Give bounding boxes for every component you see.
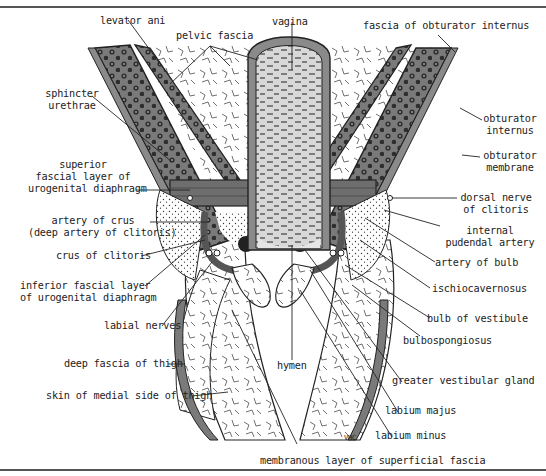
label-deep-fascia-of-thigh: deep fascia of thigh (64, 358, 183, 370)
label-line: artery of crus (28, 215, 158, 227)
label-obturator-internus: obturator internus (480, 113, 540, 137)
label-line: internal (440, 225, 540, 237)
label-pelvic-fascia: pelvic fascia (176, 30, 253, 42)
label-line: membrane (480, 162, 540, 174)
label-line: of clitoris (455, 204, 537, 216)
artist-signature: VHC (344, 432, 356, 444)
label-line: of urogenital diaphragm (20, 292, 150, 304)
label-superior-fascial-layer: superior fascial layer of urogenital dia… (28, 159, 138, 195)
label-levator-ani: levator ani (100, 15, 165, 27)
label-line: inferior fascial layer (20, 280, 150, 292)
label-line: pudendal artery (440, 237, 540, 249)
label-skin-medial-thigh: skin of medial side of thigh (46, 390, 212, 402)
label-line: internus (480, 125, 540, 137)
label-sphincter-urethrae: sphincter urethrae (42, 88, 102, 112)
label-vagina: vagina (272, 16, 308, 28)
label-obturator-membrane: obturator membrane (480, 150, 540, 174)
label-line: obturator (480, 150, 540, 162)
label-hymen: hymen (277, 360, 307, 372)
label-dorsal-nerve-clitoris: dorsal nerve of clitoris (455, 192, 537, 216)
label-line: dorsal nerve (455, 192, 537, 204)
label-line: obturator (480, 113, 540, 125)
label-greater-vestibular-gland: greater vestibular gland (392, 375, 534, 387)
label-internal-pudendal-artery: internal pudendal artery (440, 225, 540, 249)
anatomy-figure: levator ani pelvic fascia vagina fascia … (0, 0, 546, 476)
label-artery-of-crus: artery of crus (deep artery of clitoris) (28, 215, 158, 239)
label-labial-nerves: labial nerves (104, 320, 181, 332)
label-ischiocavernosus: ischiocavernosus (432, 283, 527, 295)
label-membranous-layer: membranous layer of superficial fascia (260, 455, 485, 467)
label-bulbospongiosus: bulbospongiosus (403, 335, 492, 347)
label-bulb-of-vestibule: bulb of vestibule (427, 313, 528, 325)
label-labium-majus: labium majus (385, 405, 456, 417)
label-crus-of-clitoris: crus of clitoris (56, 250, 151, 262)
label-line: (deep artery of clitoris) (28, 227, 158, 239)
label-line: sphincter (42, 88, 102, 100)
label-labium-minus: labium minus (375, 430, 446, 442)
label-line: superior (28, 159, 138, 171)
label-artery-of-bulb: artery of bulb (435, 257, 518, 269)
label-line: urethrae (42, 100, 102, 112)
label-inferior-fascial-layer: inferior fascial layer of urogenital dia… (20, 280, 150, 304)
label-line: fascial layer of (28, 171, 138, 183)
label-fascia-obturator-internus: fascia of obturator internus (363, 20, 529, 32)
label-line: urogenital diaphragm (28, 183, 138, 195)
